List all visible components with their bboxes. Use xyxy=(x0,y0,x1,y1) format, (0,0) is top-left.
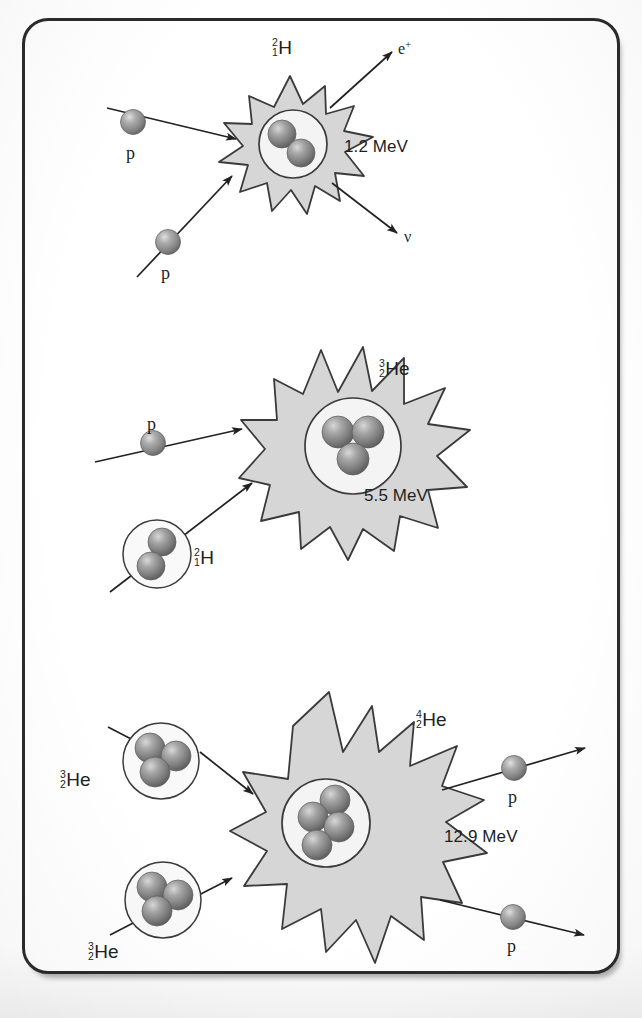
atomic-number: 2 xyxy=(379,368,385,379)
nucleon xyxy=(337,443,369,475)
arrow-proton-2-in xyxy=(137,176,232,277)
neutrino-label: ν xyxy=(404,228,411,246)
atomic-number: 1 xyxy=(272,47,278,58)
atomic-number: 2 xyxy=(88,951,94,962)
isotope-label-helium4-product: 4 2 He xyxy=(416,708,447,731)
neutrino-symbol: ν xyxy=(404,228,411,245)
reaction-1-group xyxy=(107,52,397,277)
proton-sphere xyxy=(501,905,526,930)
nucleon xyxy=(298,802,328,832)
atomic-number: 2 xyxy=(60,779,66,790)
nucleon xyxy=(137,552,165,580)
energy-label-step-2: 5.5 MeV xyxy=(364,486,428,506)
arrow-positron-out xyxy=(330,52,392,108)
proton-label-2: p xyxy=(161,263,170,284)
element-symbol: He xyxy=(94,941,118,962)
nucleon xyxy=(142,896,172,926)
nucleon xyxy=(302,830,332,860)
element-symbol: H xyxy=(200,547,214,568)
proton-sphere xyxy=(502,756,527,781)
nucleon xyxy=(140,757,170,787)
atomic-number: 1 xyxy=(194,557,200,568)
isotope-label-helium3-input-b: 3 2 He xyxy=(88,940,119,963)
proton-label-1: p xyxy=(126,143,135,164)
element-symbol: H xyxy=(278,37,292,58)
isotope-label-deuterium-input: 2 1 H xyxy=(194,546,214,569)
proton-out-label-1: p xyxy=(508,787,517,808)
element-symbol: He xyxy=(422,709,446,730)
arrow-neutrino-out xyxy=(332,183,397,233)
proton-out-label-2: p xyxy=(507,936,516,957)
isotope-label-helium3-product: 3 2 He xyxy=(379,357,410,380)
proton-label-3: p xyxy=(147,414,156,435)
isotope-label-helium3-input-a: 3 2 He xyxy=(60,768,91,791)
positron-label: e+ xyxy=(398,38,411,58)
energy-label-step-1: 1.2 MeV xyxy=(344,137,408,157)
element-symbol: He xyxy=(66,769,90,790)
reaction-2-group xyxy=(95,347,470,592)
nucleon xyxy=(287,139,315,167)
fusion-diagram xyxy=(0,0,642,1018)
element-symbol: He xyxy=(385,358,409,379)
isotope-label-deuterium-product: 2 1 H xyxy=(272,36,292,59)
energy-label-step-3: 12.9 MeV xyxy=(444,827,518,847)
proton-sphere xyxy=(156,230,181,255)
atomic-number: 2 xyxy=(416,719,422,730)
arrow-proton-3-in xyxy=(95,429,242,462)
positron-charge: + xyxy=(405,38,411,50)
proton-sphere xyxy=(121,110,146,135)
